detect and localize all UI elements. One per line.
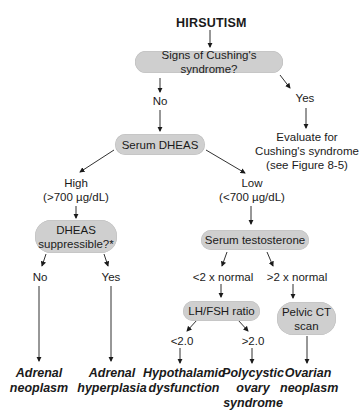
- edge-label-dheas-high: High (>700 µg/dL): [40, 176, 112, 204]
- outcome-polycystic-ovary-syndrome: Polycystic ovary syndrome: [218, 366, 288, 411]
- node-pelvic-ct-scan: Pelvic CT scan: [277, 302, 336, 335]
- edge-label-ratio-low: <2.0: [170, 334, 194, 348]
- edge-label-testosterone-high: >2 x normal: [262, 270, 332, 284]
- edge-label-suppressible-no: No: [28, 270, 52, 284]
- diagram-title: HIRSUTISM: [176, 16, 247, 30]
- edge-label-cushing-no: No: [150, 94, 170, 108]
- outcome-ovarian-neoplasm: Ovarian neoplasm: [280, 366, 336, 396]
- node-serum-dheas: Serum DHEAS: [115, 134, 205, 155]
- node-cushing-question: Signs of Cushing's syndrome?: [135, 51, 283, 73]
- node-dheas-suppressible: DHEAS suppressible?*: [35, 220, 117, 253]
- outcome-evaluate-cushing: Evaluate for Cushing's syndrome (see Fig…: [255, 130, 359, 172]
- outcome-hypothalamic-dysfunction: Hypothalamic dysfunction: [142, 366, 226, 396]
- edge-label-suppressible-yes: Yes: [98, 270, 124, 284]
- edge-label-cushing-yes: Yes: [290, 91, 320, 105]
- outcome-adrenal-hyperplasia: Adrenal hyperplasia: [74, 366, 150, 396]
- node-lh-fsh-ratio: LH/FSH ratio: [183, 301, 260, 321]
- node-serum-testosterone: Serum testosterone: [201, 230, 309, 250]
- edge-label-dheas-low: Low (<700 µg/dL): [214, 176, 290, 204]
- edge-label-testosterone-low: <2 x normal: [188, 270, 258, 284]
- outcome-adrenal-neoplasm: Adrenal neoplasm: [8, 366, 70, 396]
- edge-label-ratio-high: >2.0: [240, 334, 266, 348]
